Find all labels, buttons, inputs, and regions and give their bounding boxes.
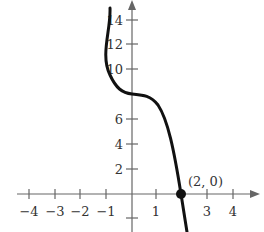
y-tick-label: 12: [106, 37, 123, 52]
intercept-point: [176, 189, 186, 199]
x-tick-label: −3: [45, 204, 64, 219]
y-tick-label: 6: [115, 112, 123, 127]
x-tick-label: −4: [19, 204, 38, 219]
y-tick-label: 2: [115, 162, 123, 177]
x-tick-label: 4: [229, 204, 237, 219]
x-tick-label: 1: [152, 204, 160, 219]
x-axis-arrow-icon: [250, 190, 260, 198]
point-label: (2, 0): [188, 174, 223, 189]
function-graph: −4 −3 −2 −1 1 3 4 2 4 6 10 12 14 (2, 0): [0, 0, 264, 232]
y-axis-arrow-icon: [128, 0, 136, 10]
x-tick-label: 3: [203, 204, 211, 219]
x-tick-label: −2: [70, 204, 89, 219]
y-tick-label: 4: [115, 137, 123, 152]
x-tick-label: −1: [96, 204, 115, 219]
